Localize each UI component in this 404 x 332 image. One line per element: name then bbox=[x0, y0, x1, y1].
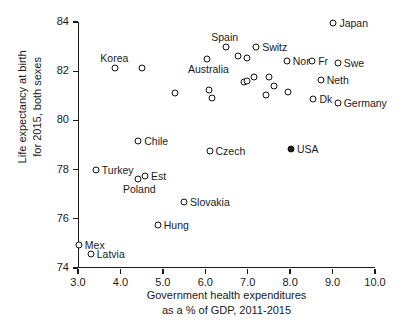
point-label: Japan bbox=[339, 18, 368, 29]
x-tick-mark bbox=[332, 269, 333, 274]
data-point-hung bbox=[154, 221, 161, 228]
point-label: Latvia bbox=[97, 248, 125, 259]
data-point-usa bbox=[287, 145, 294, 152]
data-point bbox=[251, 73, 258, 80]
data-point bbox=[235, 53, 242, 60]
point-label: Hung bbox=[164, 220, 189, 231]
data-point-slovakia bbox=[181, 198, 188, 205]
data-point bbox=[205, 87, 212, 94]
data-point-nor bbox=[283, 57, 290, 64]
data-point bbox=[243, 55, 250, 62]
x-tick-mark bbox=[289, 269, 290, 274]
data-point bbox=[285, 89, 292, 96]
point-label: Swe bbox=[344, 58, 364, 69]
y-tick-label: 80 bbox=[57, 114, 69, 125]
point-label: Chile bbox=[144, 136, 168, 147]
y-tick-label: 76 bbox=[57, 213, 69, 224]
data-point bbox=[243, 77, 250, 84]
x-tick-label: 7.0 bbox=[224, 277, 272, 288]
scatter-chart: 747678808284 3.04.05.06.07.08.09.010.0 G… bbox=[0, 0, 404, 332]
point-label: Germany bbox=[344, 97, 387, 108]
x-tick-mark bbox=[247, 269, 248, 274]
x-tick-label: 5.0 bbox=[139, 277, 187, 288]
data-point bbox=[208, 94, 215, 101]
point-label: Dk bbox=[319, 94, 332, 105]
x-tick-label: 4.0 bbox=[96, 277, 144, 288]
data-point-dk bbox=[310, 96, 317, 103]
point-label: Czech bbox=[216, 146, 246, 157]
data-point-chile bbox=[135, 138, 142, 145]
y-tick-label: 84 bbox=[57, 16, 69, 27]
x-tick-label: 8.0 bbox=[266, 277, 314, 288]
data-point-spain bbox=[222, 43, 229, 50]
x-axis-title-line2: as a % of GDP, 2011-2015 bbox=[78, 303, 375, 318]
y-axis-title-line2: for 2015, both sexes bbox=[30, 0, 45, 217]
x-tick-mark bbox=[374, 269, 375, 274]
data-point-korea bbox=[112, 64, 119, 71]
data-point bbox=[262, 92, 269, 99]
point-label: Korea bbox=[100, 52, 128, 63]
x-tick-label: 6.0 bbox=[181, 277, 229, 288]
y-axis-title-line1: Life expectancy at birth bbox=[15, 0, 30, 217]
x-tick-label: 3.0 bbox=[54, 277, 102, 288]
x-tick-label: 10.0 bbox=[351, 277, 399, 288]
point-label: Turkey bbox=[102, 164, 134, 175]
point-label: Fr bbox=[318, 56, 328, 67]
point-label: Neth bbox=[327, 75, 349, 86]
y-tick-label: 82 bbox=[57, 65, 69, 76]
data-point-czech bbox=[206, 148, 213, 155]
data-point-latvia bbox=[87, 250, 94, 257]
data-point bbox=[139, 64, 146, 71]
point-label: Spain bbox=[211, 31, 238, 42]
data-point-japan bbox=[330, 20, 337, 27]
y-axis-title: Life expectancy at birth for 2015, both … bbox=[15, 0, 45, 217]
x-tick-mark bbox=[120, 269, 121, 274]
x-tick-mark bbox=[77, 269, 78, 274]
x-axis-title-line1: Government health expenditures bbox=[78, 288, 375, 303]
data-point-neth bbox=[317, 76, 324, 83]
x-tick-mark bbox=[162, 269, 163, 274]
point-label: USA bbox=[297, 143, 319, 154]
data-point-est bbox=[142, 173, 149, 180]
y-tick-label: 74 bbox=[57, 262, 69, 273]
data-point-australia bbox=[204, 55, 211, 62]
y-tick-label: 78 bbox=[57, 164, 69, 175]
data-point bbox=[171, 89, 178, 96]
data-point bbox=[271, 83, 278, 90]
point-label: Australia bbox=[188, 64, 229, 75]
point-label: Switz bbox=[262, 41, 287, 52]
point-label: Nor bbox=[293, 56, 310, 67]
data-point-switz bbox=[253, 43, 260, 50]
x-axis-title: Government health expenditures as a % of… bbox=[78, 288, 375, 318]
point-label: Slovakia bbox=[190, 196, 230, 207]
point-label: Est bbox=[151, 171, 166, 182]
x-tick-label: 9.0 bbox=[309, 277, 357, 288]
data-point bbox=[265, 73, 272, 80]
x-tick-mark bbox=[205, 269, 206, 274]
data-point-swe bbox=[334, 60, 341, 67]
data-point-mex bbox=[75, 241, 82, 248]
data-point-germany bbox=[334, 99, 341, 106]
point-label: Poland bbox=[123, 184, 156, 195]
data-point-turkey bbox=[92, 166, 99, 173]
data-point-fr bbox=[309, 57, 316, 64]
